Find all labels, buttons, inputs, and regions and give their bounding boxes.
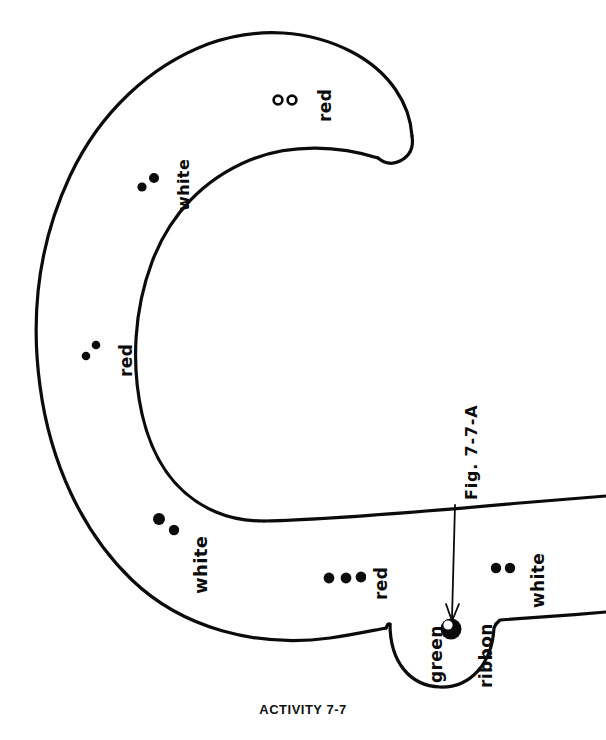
annotation-green: green bbox=[428, 625, 445, 683]
color-label-red-bottom: red bbox=[373, 567, 390, 600]
inner-contour-path bbox=[136, 148, 378, 521]
hook-tip-path bbox=[378, 136, 413, 163]
color-label-red-top: red bbox=[317, 89, 334, 122]
annotation-ribbon: ribbon bbox=[478, 623, 495, 688]
outer-contour-path bbox=[36, 33, 412, 641]
arrow-shaft bbox=[452, 505, 455, 618]
dot-pair-open bbox=[272, 93, 300, 107]
band-bottom-line-path bbox=[496, 612, 606, 624]
pattern-drawing bbox=[0, 0, 606, 740]
color-label-white-upper: white bbox=[176, 159, 192, 211]
color-label-red-left: red bbox=[118, 344, 135, 377]
activity-caption: ACTIVITY 7-7 bbox=[0, 702, 606, 717]
color-label-white-right: white bbox=[530, 553, 547, 608]
figure-arrow bbox=[446, 505, 459, 621]
figure-label: Fig. 7-7-A bbox=[464, 405, 480, 500]
dot-pair-filled bbox=[136, 172, 162, 194]
band-top-line-path bbox=[264, 496, 606, 521]
color-label-white-lower: white bbox=[192, 536, 210, 594]
dot-pair-filled bbox=[489, 560, 517, 576]
dot-pair-filled bbox=[152, 511, 182, 537]
dot-pair-filled bbox=[80, 339, 104, 363]
dot-triple-filled bbox=[322, 570, 366, 586]
figure-sheet: red white red white red bbox=[0, 0, 606, 740]
